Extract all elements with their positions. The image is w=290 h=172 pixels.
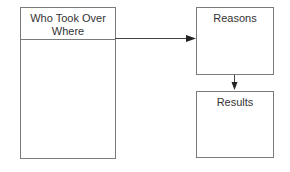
right-arrow-icon — [115, 35, 196, 42]
down-arrow-icon — [232, 75, 238, 90]
connectors — [0, 0, 290, 172]
